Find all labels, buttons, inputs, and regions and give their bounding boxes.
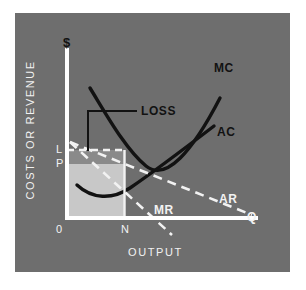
figure-root: COSTS OR REVENUE OUTPUT $ Q 0 N L P LOSS…: [0, 0, 306, 290]
loss-area: [67, 150, 124, 164]
loss-leader-line: [88, 111, 137, 151]
total-revenue-area: [67, 164, 124, 219]
chart-plot-area: [0, 0, 306, 290]
